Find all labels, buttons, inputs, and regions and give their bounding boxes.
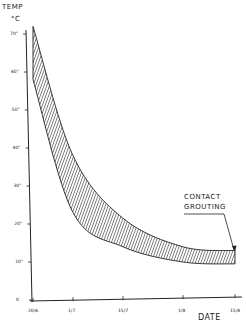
arrow-icon (224, 214, 234, 250)
x-tick-label: 1/8 (178, 308, 185, 313)
x-axis-label-date: DATE (198, 313, 221, 322)
temperature-range-band (33, 26, 235, 264)
y-axis-line (26, 30, 32, 302)
y-tick-label: 20° (14, 221, 22, 226)
y-tick-label: 10° (15, 259, 23, 264)
y-axis-label-unit: °C (11, 15, 20, 23)
x-tick-label: 20/6 (28, 308, 38, 313)
temperature-chart (0, 0, 246, 326)
y-tick-label: 30° (13, 183, 21, 188)
annotation-line2: GROUTING (184, 203, 226, 211)
y-tick-label: 60° (11, 69, 19, 74)
x-axis-line (30, 297, 242, 301)
annotation-line1: CONTACT (184, 193, 221, 201)
x-tick-label: 1/7 (68, 308, 75, 313)
y-axis-label-temp: TEMP (2, 3, 23, 11)
y-tick-label: 70° (10, 31, 18, 36)
y-tick-label: 50° (12, 107, 20, 112)
temperature-band (33, 26, 235, 264)
x-tick-label: 15/7 (118, 308, 128, 313)
y-tick-label: 40° (13, 145, 21, 150)
y-tick-label: 0 (16, 297, 19, 302)
x-tick-label: 15/8 (230, 308, 240, 313)
contact-grouting-annotation (184, 214, 237, 252)
